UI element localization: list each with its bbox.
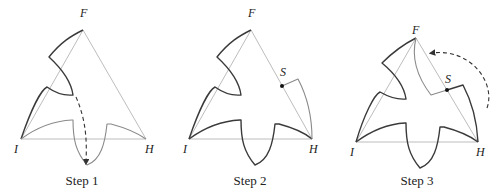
point-S xyxy=(280,84,284,88)
caption-step-1: Step 1 xyxy=(66,173,99,188)
point-label-S: S xyxy=(280,65,286,79)
panel-step-1 xyxy=(21,30,146,165)
bottom-curve xyxy=(189,120,312,165)
vertex-label-H: H xyxy=(475,145,486,159)
vertex-label-F: F xyxy=(247,6,256,20)
vertex-label-F: F xyxy=(411,23,420,37)
panel-step-3 xyxy=(356,38,489,168)
rotation-arrow xyxy=(432,53,489,108)
rotation-arrow xyxy=(76,97,86,162)
bottom-curve xyxy=(356,123,478,168)
rotated-tab-curve xyxy=(414,38,447,95)
escher-tessellation-diagram: F I H Step 1 F S I H Step 2 F S I H Step… xyxy=(0,0,503,196)
vertex-label-I: I xyxy=(182,142,188,156)
vertex-label-F: F xyxy=(79,6,88,20)
point-S xyxy=(445,88,449,92)
bottom-curve xyxy=(21,120,146,165)
triangle-outline xyxy=(21,30,146,139)
triangle-outline xyxy=(189,30,312,139)
vertex-label-H: H xyxy=(308,142,319,156)
vertex-label-H: H xyxy=(144,142,155,156)
caption-step-2: Step 2 xyxy=(234,173,267,188)
caption-step-3: Step 3 xyxy=(401,173,434,188)
vertex-label-I: I xyxy=(13,142,19,156)
vertex-label-I: I xyxy=(349,145,355,159)
triangle-outline xyxy=(356,38,478,142)
point-label-S: S xyxy=(445,72,451,86)
panel-step-2 xyxy=(189,30,312,165)
